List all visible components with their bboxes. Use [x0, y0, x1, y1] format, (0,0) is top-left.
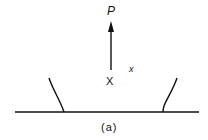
force-label: P	[107, 5, 115, 17]
left-curve	[49, 78, 64, 112]
caption: (a)	[101, 122, 117, 133]
point-label: X	[106, 76, 113, 87]
force-arrow-head	[108, 21, 114, 32]
diagram-canvas	[0, 0, 208, 140]
right-curve	[163, 78, 177, 112]
coord-label: x	[129, 65, 134, 74]
